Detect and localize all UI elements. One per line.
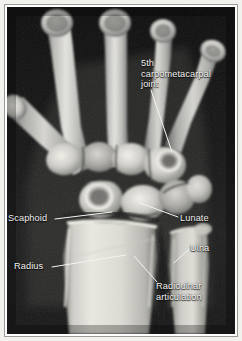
xray-figure: 5th carpometacarpal joint Scaphoid Lunat… — [0, 0, 242, 341]
label-scaphoid: Scaphoid — [8, 213, 47, 224]
label-lunate: Lunate — [180, 213, 209, 224]
label-carpometacarpal-joint: 5th carpometacarpal joint — [141, 58, 211, 90]
label-ulna: Ulna — [190, 243, 209, 254]
label-radius: Radius — [14, 261, 43, 272]
label-radioulnar-articulation: Radioulnar articulation — [156, 281, 202, 302]
